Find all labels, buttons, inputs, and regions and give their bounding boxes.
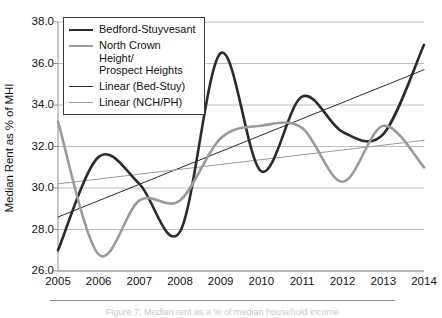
figure-caption: Figure 7: Median rent as a % of median h… bbox=[50, 307, 395, 317]
x-tick-label: 2014 bbox=[404, 275, 442, 287]
x-tick-label: 2006 bbox=[79, 275, 119, 287]
x-tick-label: 2007 bbox=[119, 275, 159, 287]
legend-line-icon bbox=[69, 97, 93, 109]
caption-divider bbox=[50, 300, 395, 301]
x-tick-label: 2005 bbox=[38, 275, 78, 287]
legend-item[interactable]: North Crown Height/ Prospect Heights bbox=[69, 39, 198, 77]
x-tick-label: 2011 bbox=[282, 275, 322, 287]
x-tick-label: 2013 bbox=[363, 275, 403, 287]
chart-legend: Bedford-StuyvesantNorth Crown Height/ Pr… bbox=[63, 17, 205, 115]
legend-item-label: Linear (NCH/PH) bbox=[99, 96, 182, 109]
legend-item-label: North Crown Height/ Prospect Heights bbox=[99, 39, 198, 77]
legend-item[interactable]: Bedford-Stuyvesant bbox=[69, 23, 198, 36]
series-line-north-crown-height-prospect-heights bbox=[58, 122, 424, 257]
legend-item[interactable]: Linear (Bed-Stuy) bbox=[69, 80, 198, 93]
legend-line-icon bbox=[69, 81, 93, 93]
x-tick-label: 2008 bbox=[160, 275, 200, 287]
x-axis-tick-labels: 2005200620072008200920102011201220132014 bbox=[0, 275, 442, 291]
x-tick-label: 2012 bbox=[323, 275, 363, 287]
legend-item-label: Linear (Bed-Stuy) bbox=[99, 80, 185, 93]
legend-line-icon bbox=[69, 40, 93, 52]
legend-item[interactable]: Linear (NCH/PH) bbox=[69, 96, 198, 109]
legend-item-label: Bedford-Stuyvesant bbox=[99, 23, 196, 36]
x-tick-label: 2010 bbox=[241, 275, 281, 287]
legend-line-icon bbox=[69, 24, 93, 36]
chart-container: Median Rent as % of MHI 38.036.034.032.0… bbox=[0, 0, 442, 318]
x-tick-label: 2009 bbox=[201, 275, 241, 287]
